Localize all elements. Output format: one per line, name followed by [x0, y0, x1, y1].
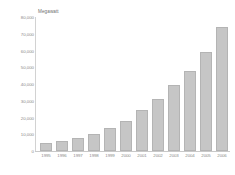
bar-chart: Megawatt 010,00020,00030,00040,00050,000… [0, 0, 235, 175]
x-tick-label: 2004 [182, 153, 198, 165]
bar-series [38, 17, 230, 151]
x-tick-label: 1998 [86, 153, 102, 165]
bar[interactable] [72, 138, 84, 151]
x-tick-label: 1999 [102, 153, 118, 165]
bar[interactable] [200, 52, 212, 151]
y-tick-label: 50,000 [21, 65, 34, 70]
bar[interactable] [152, 99, 164, 151]
bar-slot [102, 17, 118, 151]
bar[interactable] [40, 143, 52, 151]
bar-slot [118, 17, 134, 151]
bar-slot [182, 17, 198, 151]
x-tick-label: 1997 [70, 153, 86, 165]
y-tick-label: 10,000 [21, 132, 34, 137]
y-tick-label: 40,000 [21, 82, 34, 87]
bar[interactable] [104, 128, 116, 151]
bar[interactable] [56, 141, 68, 151]
y-tick-label: 70,000 [21, 31, 34, 36]
x-tick-label: 1995 [38, 153, 54, 165]
bar-slot [54, 17, 70, 151]
bar[interactable] [184, 71, 196, 151]
bar[interactable] [88, 134, 100, 151]
y-axis: 010,00020,00030,00040,00050,00060,00070,… [0, 17, 38, 151]
x-tick-label: 2000 [118, 153, 134, 165]
y-tick-label: 0 [32, 149, 34, 154]
x-axis: 1995199619971998199920002001200220032004… [38, 153, 230, 165]
bar-slot [86, 17, 102, 151]
bar-slot [166, 17, 182, 151]
bar-slot [38, 17, 54, 151]
y-tick-label: 20,000 [21, 115, 34, 120]
y-axis-unit-label: Megawatt [38, 9, 59, 14]
x-tick-label: 2003 [166, 153, 182, 165]
x-tick-label: 2005 [198, 153, 214, 165]
bar-slot [150, 17, 166, 151]
y-axis-line [35, 17, 36, 151]
x-tick-label: 2001 [134, 153, 150, 165]
bar[interactable] [120, 121, 132, 151]
x-tick-label: 2002 [150, 153, 166, 165]
bar-slot [70, 17, 86, 151]
bar[interactable] [216, 27, 228, 151]
bar-slot [214, 17, 230, 151]
bar[interactable] [168, 85, 180, 151]
bar[interactable] [136, 110, 148, 151]
bar-slot [134, 17, 150, 151]
y-tick-label: 80,000 [21, 15, 34, 20]
x-tick-label: 1996 [54, 153, 70, 165]
y-tick-label: 30,000 [21, 98, 34, 103]
x-tick-label: 2006 [214, 153, 230, 165]
bar-slot [198, 17, 214, 151]
y-tick-label: 60,000 [21, 48, 34, 53]
